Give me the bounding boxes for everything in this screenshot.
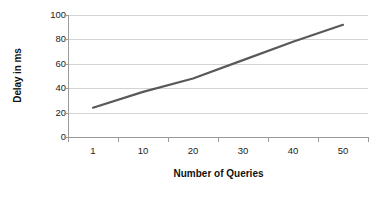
chart-container: Delay in ms 020406080100 11020304050 Num… [0,0,379,200]
x-tickmark-3 [218,137,219,142]
y-tick-label-0: 0 [30,132,66,142]
y-tick-label-60: 60 [30,59,66,69]
x-tick-label-40: 40 [273,145,313,157]
x-tick-label-10: 10 [123,145,163,157]
plot-area [68,15,368,137]
y-tick-label-80: 80 [30,34,66,44]
x-tickmark-0 [68,137,69,142]
y-axis-title-label: Delay in ms [12,48,23,102]
x-tickmark-5 [318,137,319,142]
y-axis-tick-labels: 020406080100 [26,0,66,150]
x-tickmark-1 [118,137,119,142]
y-tick-label-100: 100 [30,10,66,20]
y-axis-line [68,15,69,138]
y-tick-label-40: 40 [30,83,66,93]
x-tick-label-1: 1 [73,145,113,157]
x-tick-label-50: 50 [323,145,363,157]
y-tick-label-20: 20 [30,108,66,118]
x-tickmark-4 [268,137,269,142]
series-line-delay [68,15,368,137]
x-tick-label-20: 20 [173,145,213,157]
x-tick-label-30: 30 [223,145,263,157]
x-tickmark-2 [168,137,169,142]
x-axis-title: Number of Queries [68,168,369,179]
x-tickmark-6 [368,137,369,142]
y-axis-title: Delay in ms [6,0,28,150]
x-axis-title-label: Number of Queries [173,168,263,179]
x-axis-tick-labels: 11020304050 [68,145,369,159]
